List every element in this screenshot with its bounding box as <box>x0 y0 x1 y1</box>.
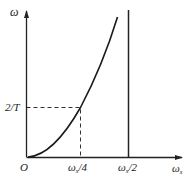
x-tick-label-half: ωs/2 <box>118 161 138 175</box>
y-tick-label: 2/T <box>5 101 21 113</box>
dashed-reference-lines <box>27 108 81 158</box>
origin-label: O <box>20 161 28 173</box>
x-tick-label-quarter: ωs/4 <box>68 161 88 175</box>
y-axis-label: ω <box>10 5 18 19</box>
frequency-warping-diagram: ω 2/T O ωs/4 ωs/2 ωs <box>0 0 190 180</box>
x-axis-label: ωs <box>172 162 183 176</box>
warping-curve <box>28 17 118 157</box>
